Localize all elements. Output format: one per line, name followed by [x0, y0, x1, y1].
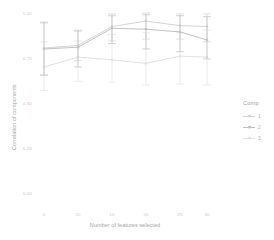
- legend-item-3[interactable]: 3: [243, 132, 261, 143]
- chart-figure: 1.00 0.75 0.50 0.25 0.00 Correlation of …: [0, 0, 274, 240]
- plot-area: [0, 0, 274, 240]
- legend-item-1[interactable]: 1: [243, 110, 261, 121]
- series-3: [40, 30, 211, 90]
- legend-line-swatch-3: [243, 133, 255, 142]
- legend-line-swatch-2: [243, 122, 255, 131]
- legend-line-swatch-1: [243, 111, 255, 120]
- legend-item-label: 1: [258, 113, 261, 119]
- series-2: [40, 15, 211, 75]
- legend-item-label: 2: [258, 124, 261, 130]
- series-1: [40, 13, 211, 75]
- legend-item-2[interactable]: 2: [243, 121, 261, 132]
- legend: Comp 1 2 3: [243, 100, 261, 143]
- legend-title: Comp: [243, 100, 261, 106]
- legend-item-label: 3: [258, 135, 261, 141]
